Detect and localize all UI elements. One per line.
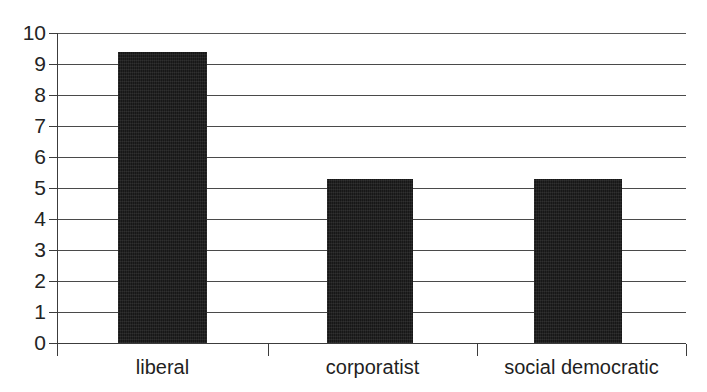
gridline-10: [57, 33, 686, 34]
y-tick-label-1: 1: [2, 301, 46, 322]
bar-social-democratic: [534, 179, 622, 343]
x-category-label-liberal: liberal: [57, 355, 268, 379]
y-tick-label-7: 7: [2, 115, 46, 136]
x-tick-end: [686, 344, 687, 356]
y-tick-label-0: 0: [2, 332, 46, 353]
y-tick-9: [49, 64, 58, 65]
y-tick-4: [49, 219, 58, 220]
bar-chart: 10 9 8 7 6 5 4 3 2 1 0 liberal corporati…: [0, 0, 707, 392]
y-tick-10: [49, 33, 58, 34]
x-category-label-corporatist: corporatist: [268, 355, 477, 379]
y-tick-label-2: 2: [2, 270, 46, 291]
y-tick-label-10: 10: [2, 22, 46, 43]
y-tick-3: [49, 250, 58, 251]
y-tick-2: [49, 281, 58, 282]
y-tick-6: [49, 157, 58, 158]
bar-liberal: [118, 52, 207, 343]
y-tick-7: [49, 126, 58, 127]
bar-corporatist: [327, 179, 413, 343]
y-tick-8: [49, 95, 58, 96]
y-tick-label-4: 4: [2, 208, 46, 229]
y-tick-label-6: 6: [2, 146, 46, 167]
y-tick-1: [49, 312, 58, 313]
y-tick-label-9: 9: [2, 53, 46, 74]
y-tick-label-8: 8: [2, 84, 46, 105]
y-tick-label-5: 5: [2, 177, 46, 198]
y-tick-label-3: 3: [2, 239, 46, 260]
x-category-label-social-democratic: social democratic: [477, 355, 686, 379]
x-axis-line: [57, 343, 686, 344]
y-tick-5: [49, 188, 58, 189]
